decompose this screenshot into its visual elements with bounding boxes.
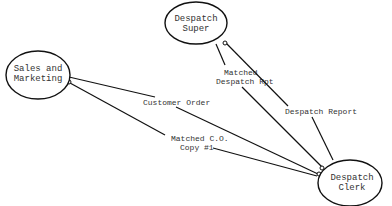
edge-label-matched-co-1: Matched C.O. — [171, 134, 229, 143]
node-despatch-clerk-label-1: Despatch — [330, 173, 373, 183]
edge-matched-co-line-b — [213, 148, 317, 176]
arrow-head-icon — [223, 41, 227, 45]
edge-matched-co: Matched C.O. Copy #1 — [67, 80, 317, 176]
edge-label-matched-rpt-2: Despatch Rpt — [216, 77, 274, 86]
node-despatch-super[interactable]: Despatch Super — [165, 2, 227, 44]
node-sales-marketing-label-2: Marketing — [14, 74, 63, 84]
edge-customer-order: Customer Order — [69, 77, 321, 176]
edge-despatch-report-line-b — [312, 117, 333, 160]
node-despatch-super-label-1: Despatch — [174, 14, 217, 24]
node-sales-marketing-label-1: Sales and — [14, 64, 63, 74]
dataflow-diagram: Customer Order Matched C.O. Copy #1 Matc… — [0, 0, 392, 206]
edge-label-matched-co-2: Copy #1 — [180, 143, 214, 152]
edge-matched-rpt-line-a — [216, 44, 225, 65]
edge-despatch-report: Despatch Report — [223, 41, 357, 160]
node-sales-marketing[interactable]: Sales and Marketing — [6, 51, 70, 99]
node-despatch-clerk-label-2: Clerk — [338, 183, 365, 193]
node-despatch-super-label-2: Super — [182, 24, 209, 34]
node-despatch-clerk[interactable]: Despatch Clerk — [318, 160, 382, 206]
edge-label-despatch-report: Despatch Report — [285, 107, 357, 116]
edge-matched-rpt-line-b — [242, 87, 322, 167]
edge-matched-co-line-a — [70, 83, 165, 135]
edge-customer-order-line-a — [69, 77, 155, 97]
edge-label-customer-order: Customer Order — [143, 98, 210, 107]
